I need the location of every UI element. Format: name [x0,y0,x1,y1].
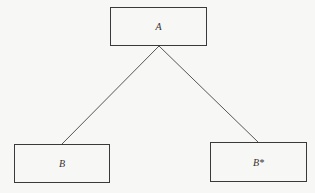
node-a-label: A [155,21,161,32]
node-bstar-label: B* [253,157,264,168]
node-a: A [110,7,207,46]
node-b-label: B [59,158,65,169]
node-b: B [14,144,110,183]
node-bstar: B* [210,142,307,182]
edge-a-bstar [159,46,258,142]
edge-a-b [62,46,159,144]
